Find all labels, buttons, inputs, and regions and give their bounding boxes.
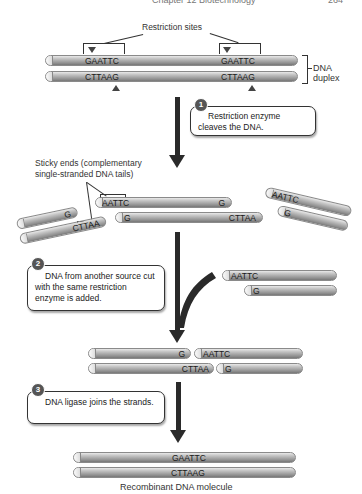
site-sequence: CTTAAG bbox=[85, 72, 119, 83]
annealed-top-left: G bbox=[88, 348, 191, 359]
chapter-header: Chapter 12 Biotechnology bbox=[152, 0, 256, 5]
restriction-sites-label: Restriction sites bbox=[142, 22, 202, 32]
cut-marker-bottom-icon bbox=[248, 85, 256, 91]
site-sequence: CTTAAG bbox=[221, 72, 255, 83]
center-fragment-top: AATTC G bbox=[95, 197, 232, 208]
arrow-head-icon bbox=[169, 155, 185, 168]
foreign-dna-top: AATTC bbox=[222, 270, 337, 281]
step-3-callout: DNA ligase joins the strands. bbox=[27, 391, 165, 424]
cut-marker-top-icon bbox=[88, 47, 96, 53]
step-3-badge: 3 bbox=[31, 383, 45, 397]
foreign-dna-bottom: G bbox=[244, 285, 337, 296]
site-sequence: GAATTC bbox=[221, 56, 255, 67]
dna-strand-top: GAATTC GAATTC bbox=[45, 55, 298, 66]
brace-tick bbox=[307, 68, 312, 69]
process-arrow bbox=[176, 382, 181, 432]
left-fragment: G CTTAA bbox=[15, 196, 116, 255]
annealed-bottom-right: G bbox=[216, 363, 303, 374]
annealed-top-right: AATTC bbox=[194, 348, 303, 359]
step-2-badge: 2 bbox=[31, 257, 45, 271]
step-1-badge: 1 bbox=[194, 98, 208, 112]
sticky-ends-label: Sticky ends (complementary single-strand… bbox=[35, 158, 142, 180]
merge-arrow-curve bbox=[176, 270, 216, 330]
recombinant-caption: Recombinant DNA molecule bbox=[120, 482, 233, 492]
process-arrow bbox=[175, 97, 180, 157]
pointer-line bbox=[210, 33, 239, 43]
annealed-bottom-left: CTTAA bbox=[88, 363, 214, 374]
page-number: 264 bbox=[328, 0, 343, 5]
arrow-head-icon bbox=[170, 430, 186, 443]
recombinant-top: GAATTC bbox=[73, 452, 296, 463]
dna-strand-bottom: CTTAAG CTTAAG bbox=[45, 71, 298, 82]
step-2-callout: DNA from another source cut with the sam… bbox=[27, 265, 165, 311]
center-fragment-bottom: G CTTAA bbox=[115, 212, 263, 223]
duplex-label: DNA duplex bbox=[313, 63, 340, 83]
duplex-brace bbox=[302, 55, 308, 84]
step-1-callout: Restriction enzyme cleaves the DNA. bbox=[190, 106, 316, 136]
cut-marker-top-icon bbox=[223, 47, 231, 53]
right-fragment: AATTC G bbox=[255, 182, 357, 242]
cut-marker-bottom-icon bbox=[112, 85, 120, 91]
arrow-head-icon bbox=[169, 330, 185, 343]
site-sequence: GAATTC bbox=[85, 56, 119, 67]
recombinant-bottom: CTTAAG bbox=[73, 467, 296, 478]
